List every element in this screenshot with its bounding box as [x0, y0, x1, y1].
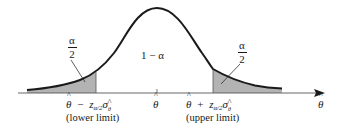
lower-limit-formula: θ − zα/2σθ	[66, 99, 111, 110]
axis-variable-label: θ	[318, 99, 323, 110]
theta-hat: θ	[66, 99, 71, 110]
upper-limit-caption: (upper limit)	[186, 113, 239, 124]
right-tail-shading	[213, 69, 282, 93]
plus-operator: +	[197, 98, 203, 110]
theta-hat: θ	[318, 99, 323, 110]
upper-limit-formula: θ + zα/2σθ	[186, 99, 231, 110]
theta-hat: θ	[186, 99, 191, 110]
left-tail-pointer	[71, 60, 85, 82]
right-tail-denominator: 2	[239, 53, 245, 65]
z-subscript: α/2	[93, 104, 102, 112]
minus-operator: −	[77, 98, 83, 110]
confidence-interval-diagram: 1 − α α 2 α 2 θ − zα/2σθ (lower limit) θ…	[0, 0, 339, 133]
central-area-label: 1 − α	[141, 50, 164, 61]
z-subscript: α/2	[213, 104, 222, 112]
left-tail-fraction: α 2	[65, 35, 79, 60]
left-tail-denominator: 2	[69, 48, 75, 60]
central-area-text: 1 − α	[141, 49, 164, 61]
center-estimate-label: θ	[153, 99, 158, 110]
right-tail-numerator: α	[239, 40, 245, 52]
lower-limit-caption: (lower limit)	[66, 113, 119, 124]
right-tail-fraction: α 2	[235, 40, 249, 65]
distribution-plot	[0, 0, 339, 133]
left-tail-numerator: α	[69, 35, 75, 47]
theta-hat: θ	[153, 99, 158, 110]
